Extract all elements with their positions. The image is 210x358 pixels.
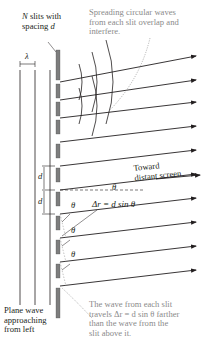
slits-pointer bbox=[48, 42, 56, 52]
wavelength-marker bbox=[20, 61, 35, 67]
theta-label-2: θ bbox=[71, 226, 75, 236]
d-spacing-markers bbox=[42, 166, 55, 214]
d-lower-label: d bbox=[38, 197, 42, 207]
slits-label: N slits with spacing d bbox=[22, 12, 61, 31]
delta-r-equation: Δr = d sin θ bbox=[92, 199, 135, 209]
path-difference-annotation: The wave from each slit travels Δr = d s… bbox=[89, 300, 179, 338]
d-upper-label: d bbox=[38, 172, 42, 182]
path-difference-lines bbox=[60, 214, 66, 286]
theta-label-1: θ bbox=[71, 201, 75, 211]
theta-label-3: θ bbox=[71, 250, 75, 260]
circular-wavelets bbox=[79, 40, 113, 136]
plane-wavefronts bbox=[20, 70, 50, 305]
theta-center-label: θ bbox=[112, 183, 116, 193]
plane-wave-label: Plane wave approaching from left bbox=[4, 306, 46, 335]
wavelength-label: λ bbox=[25, 52, 29, 62]
spreading-waves-annotation: Spreading circular waves from each slit … bbox=[89, 8, 179, 37]
slit-barrier bbox=[56, 50, 60, 318]
